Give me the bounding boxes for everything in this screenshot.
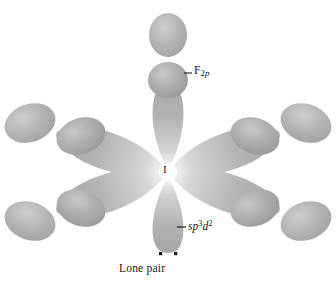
nucleus-highlight	[159, 163, 177, 181]
lone-pair-dot-left	[159, 252, 162, 255]
hybrid-lobe-down-lone-pair	[153, 176, 184, 253]
fluorine-2p-orbital-top-outer	[149, 13, 187, 57]
fluorine-2p-label-orbital: p	[205, 68, 209, 78]
orbital-diagram-figure	[0, 0, 336, 283]
hybrid-label-d-exponent: 2	[208, 218, 212, 228]
lone-pair-dot-right	[174, 252, 177, 255]
central-atom-label: I	[163, 164, 167, 175]
fluorine-2p-orbital-upper-left-outer	[0, 97, 61, 150]
fluorine-2p-label: F2p	[194, 65, 209, 78]
fluorine-2p-orbital-lower-right-outer	[275, 195, 336, 248]
hybrid-orbital-label: sp3d2	[188, 219, 212, 232]
fluorine-2p-orbital-upper-right-outer	[275, 97, 336, 150]
lone-pair-label: Lone pair	[119, 263, 165, 275]
fluorine-2p-orbital-top-inner	[148, 62, 188, 98]
fluorine-2p-orbital-lower-left-outer	[0, 195, 61, 248]
